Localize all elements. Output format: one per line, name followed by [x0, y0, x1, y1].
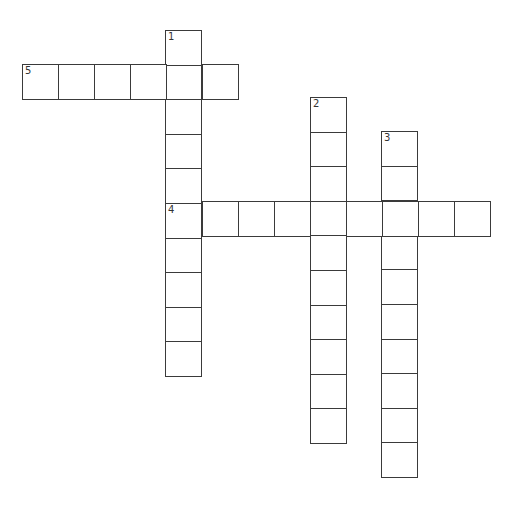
crossword-cell[interactable]	[382, 201, 419, 237]
crossword-cell[interactable]	[202, 64, 239, 100]
crossword-cell[interactable]: 5	[22, 64, 59, 100]
crossword-cell[interactable]	[310, 132, 347, 168]
crossword-cell[interactable]	[310, 166, 347, 202]
crossword-cell[interactable]	[418, 201, 455, 237]
crossword-cell[interactable]	[94, 64, 131, 100]
crossword-cell[interactable]	[346, 201, 383, 237]
crossword-cell[interactable]	[381, 339, 418, 375]
crossword-cell[interactable]	[310, 270, 347, 306]
crossword-cell[interactable]	[381, 304, 418, 340]
crossword-cell[interactable]	[454, 201, 491, 237]
crossword-cell[interactable]: 2	[310, 97, 347, 133]
crossword-cell[interactable]	[381, 408, 418, 444]
crossword-cell[interactable]: 4	[165, 203, 202, 239]
crossword-cell[interactable]	[274, 201, 311, 237]
clue-number: 3	[384, 132, 390, 144]
crossword-cell[interactable]: 1	[165, 30, 202, 66]
crossword-cell[interactable]	[310, 408, 347, 444]
crossword-grid: 14235	[0, 0, 519, 505]
crossword-cell[interactable]	[165, 99, 202, 135]
crossword-cell[interactable]	[381, 442, 418, 478]
crossword-cell[interactable]	[165, 341, 202, 377]
crossword-cell[interactable]	[310, 305, 347, 341]
crossword-cell[interactable]	[381, 235, 418, 271]
crossword-cell[interactable]	[381, 166, 418, 202]
crossword-cell[interactable]	[310, 235, 347, 271]
crossword-cell[interactable]	[130, 64, 167, 100]
crossword-cell[interactable]	[238, 201, 275, 237]
crossword-cell[interactable]	[381, 373, 418, 409]
crossword-cell[interactable]: 3	[381, 131, 418, 167]
crossword-cell[interactable]	[310, 339, 347, 375]
crossword-cell[interactable]	[310, 201, 347, 237]
clue-number: 4	[168, 204, 174, 216]
crossword-cell[interactable]	[381, 269, 418, 305]
crossword-cell[interactable]	[310, 374, 347, 410]
clue-number: 5	[25, 65, 31, 77]
crossword-cell[interactable]	[165, 238, 202, 274]
clue-number: 2	[313, 98, 319, 110]
crossword-cell[interactable]	[165, 307, 202, 343]
crossword-cell[interactable]	[165, 272, 202, 308]
crossword-cell[interactable]	[165, 65, 202, 101]
clue-number: 1	[168, 31, 174, 43]
crossword-cell[interactable]	[202, 201, 239, 237]
crossword-cell[interactable]	[165, 134, 202, 170]
crossword-cell[interactable]	[165, 168, 202, 204]
crossword-cell[interactable]	[58, 64, 95, 100]
